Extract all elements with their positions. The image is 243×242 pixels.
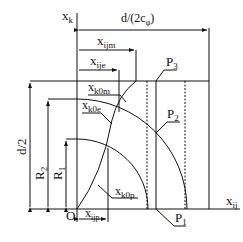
- leader-P2: [156, 122, 180, 133]
- label-P1: P1: [175, 210, 187, 227]
- label-d-2c: d/(2cφ): [121, 11, 154, 27]
- label-xij: xij: [226, 193, 238, 210]
- label-xk: xk: [62, 8, 74, 25]
- label-R2: R2: [32, 167, 49, 180]
- label-xijp: xijp: [85, 206, 99, 222]
- label-xijm: xijm: [97, 33, 116, 50]
- label-xije: xije: [90, 53, 106, 70]
- label-R1: R1: [50, 167, 67, 180]
- diagram-canvas: xk d/(2cφ) xijm xije xk0m xk0e xk0p P3 P…: [0, 0, 243, 242]
- label-origin: O: [66, 208, 75, 223]
- label-xk0p: xk0p: [115, 184, 135, 200]
- label-P3: P3: [166, 54, 178, 71]
- label-P2: P2: [167, 106, 179, 123]
- leader-P3: [156, 70, 177, 81]
- leader-xk0e: [82, 113, 112, 124]
- label-half-d: d/2: [14, 138, 29, 155]
- label-xk0m: xk0m: [88, 80, 110, 96]
